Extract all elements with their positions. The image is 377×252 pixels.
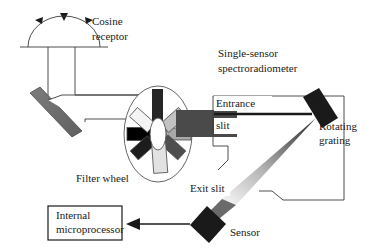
entrance-slit-label-line2: slit: [216, 119, 229, 131]
exit-slit-label: Exit slit: [190, 182, 225, 194]
rotating-grating-label-line1: Rotating: [319, 120, 357, 132]
rotating-grating-label-line2: grating: [319, 134, 351, 146]
filter-wheel-hub: [150, 118, 166, 150]
spectroradiometer-diagram: Internal microprocessor Cosine receptor …: [0, 0, 377, 252]
microprocessor-group: Internal microprocessor: [48, 206, 124, 240]
cosine-receptor-label-line1: Cosine: [92, 15, 123, 27]
cosine-receptor-label-line2: receptor: [92, 30, 128, 42]
filter-wheel-label: Filter wheel: [76, 172, 129, 184]
signal-arrow-group: [126, 218, 190, 230]
diagram-canvas: Internal microprocessor Cosine receptor …: [0, 0, 377, 252]
labels-group: Cosine receptor Single-sensor spectrorad…: [76, 15, 357, 238]
incoming-light-arrow-down-icon: [60, 13, 68, 21]
microprocessor-label-line2: microprocessor: [56, 223, 124, 235]
sensor-label: Sensor: [230, 226, 260, 238]
spectroradiometer-label-line1: Single-sensor: [218, 47, 278, 59]
entrance-slit-label-line1: Entrance: [216, 97, 255, 109]
spectroradiometer-label-line2: spectroradiometer: [218, 62, 298, 74]
microprocessor-label-line1: Internal: [56, 209, 90, 221]
signal-arrowhead-icon: [126, 218, 140, 230]
